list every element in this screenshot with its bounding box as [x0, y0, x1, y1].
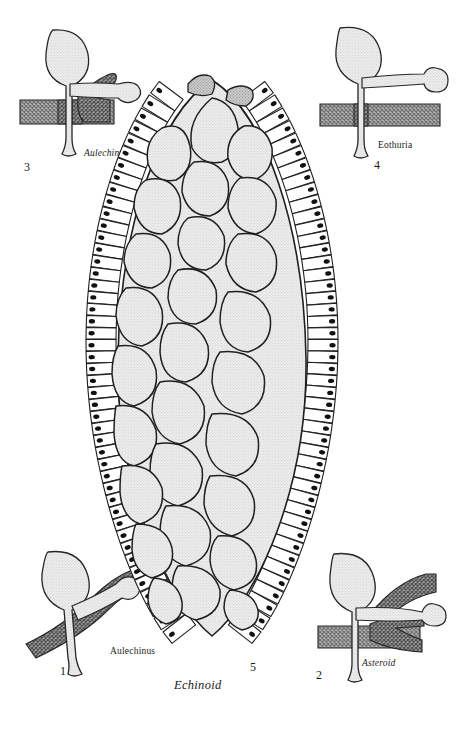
panel-number-central: 5 [250, 660, 256, 675]
panel-number-eothuria: 3 [24, 160, 30, 175]
marginal-tubercle [88, 343, 94, 347]
apical-plate-left [188, 75, 215, 96]
aulechinus-test-diagram [62, 58, 362, 668]
apical-plate-right [226, 86, 253, 106]
panel-label-aulechinus-detail: Asteroid [362, 658, 395, 668]
panel-label-central: Echinoid [174, 678, 222, 693]
panel-label-echinoid: Eothuria [378, 140, 412, 150]
marginal-tubercle [329, 343, 335, 347]
panel-central-test: 5 Echinoid [62, 58, 362, 668]
panel-number-aulechinus-detail: 2 [316, 668, 322, 683]
panel-number-echinoid: 4 [374, 158, 380, 173]
